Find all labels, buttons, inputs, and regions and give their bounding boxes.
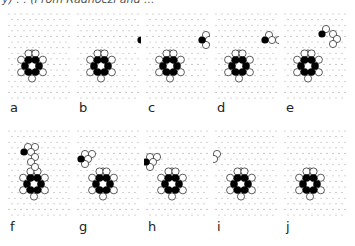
grid-dot <box>50 130 51 131</box>
grid-dot <box>23 53 24 54</box>
grid-dot <box>122 136 123 137</box>
grid-dot <box>245 142 246 143</box>
grid-dot <box>260 19 261 20</box>
grid-dot <box>215 209 216 210</box>
grid-dot <box>200 25 201 26</box>
grid-dot <box>287 192 288 193</box>
grid-dot <box>125 186 126 187</box>
grid-dot <box>134 136 135 137</box>
grid-dot <box>296 130 297 131</box>
panel-j <box>282 129 348 229</box>
grid-dot <box>341 214 342 215</box>
grid-dot <box>260 214 261 215</box>
grid-dot <box>8 81 9 82</box>
grid-dot <box>158 142 159 143</box>
grid-dot <box>308 13 309 14</box>
grid-dot <box>335 19 336 20</box>
grid-dot <box>104 158 105 159</box>
grid-dot <box>284 69 285 70</box>
grid-dot <box>272 192 273 193</box>
grid-dot <box>116 30 117 31</box>
grid-dot <box>185 170 186 171</box>
grid-dot <box>245 25 246 26</box>
grid-dot <box>98 41 99 42</box>
grid-dot <box>41 158 42 159</box>
grid-dot <box>152 81 153 82</box>
grid-dot <box>257 92 258 93</box>
grid-dot <box>38 209 39 210</box>
grid-dot <box>287 75 288 76</box>
grid-dot <box>164 81 165 82</box>
grid-dot <box>191 158 192 159</box>
grid-dot <box>284 130 285 131</box>
open-atom-icon <box>158 187 165 194</box>
grid-dot <box>254 64 255 65</box>
grid-dot <box>17 203 18 204</box>
grid-dot <box>260 41 261 42</box>
grid-dot <box>101 209 102 210</box>
grid-dot <box>125 130 126 131</box>
grid-dot <box>161 158 162 159</box>
grid-dot <box>293 158 294 159</box>
grid-dot <box>224 147 225 148</box>
grid-dot <box>152 130 153 131</box>
grid-dot <box>335 53 336 54</box>
grid-dot <box>8 153 9 154</box>
grid-dot <box>122 97 123 98</box>
grid-dot <box>41 214 42 215</box>
grid-dot <box>224 158 225 159</box>
grid-dot <box>287 97 288 98</box>
open-atom-icon <box>89 174 96 181</box>
grid-dot <box>8 130 9 131</box>
grid-dot <box>329 97 330 98</box>
grid-dot <box>62 25 63 26</box>
grid-dot <box>80 214 81 215</box>
grid-dot <box>20 198 21 199</box>
filled-atom-icon <box>234 174 242 182</box>
open-atom-icon <box>304 75 311 82</box>
grid-dot <box>98 147 99 148</box>
grid-dot <box>242 30 243 31</box>
grid-dot <box>23 170 24 171</box>
grid-dot <box>182 13 183 14</box>
grid-dot <box>227 142 228 143</box>
grid-dot <box>248 30 249 31</box>
grid-dot <box>125 209 126 210</box>
grid-dot <box>266 30 267 31</box>
grid-dot <box>323 53 324 54</box>
grid-dot <box>341 86 342 87</box>
grid-dot <box>266 86 267 87</box>
grid-dot <box>215 25 216 26</box>
grid-dot <box>149 53 150 54</box>
grid-dot <box>158 198 159 199</box>
grid-dot <box>260 64 261 65</box>
grid-dot <box>95 13 96 14</box>
grid-dot <box>137 164 138 165</box>
grid-dot <box>17 30 18 31</box>
grid-dot <box>176 81 177 82</box>
grid-dot <box>215 13 216 14</box>
grid-dot <box>317 30 318 31</box>
grid-dot <box>80 136 81 137</box>
grid-dot <box>287 41 288 42</box>
grid-dot <box>131 36 132 37</box>
grid-dot <box>152 153 153 154</box>
grid-dot <box>290 153 291 154</box>
panel-label-i: i <box>217 219 221 234</box>
grid-dot <box>257 36 258 37</box>
grid-dot <box>263 186 264 187</box>
grid-dot <box>323 64 324 65</box>
grid-dot <box>218 64 219 65</box>
grid-dot <box>302 198 303 199</box>
grid-dot <box>191 170 192 171</box>
grid-dot <box>254 97 255 98</box>
grid-dot <box>227 36 228 37</box>
grid-dot <box>320 13 321 14</box>
grid-dot <box>38 92 39 93</box>
grid-dot <box>215 175 216 176</box>
grid-dot <box>239 142 240 143</box>
grid-dot <box>332 198 333 199</box>
grid-dot <box>122 214 123 215</box>
grid-dot <box>68 81 69 82</box>
grid-dot <box>188 198 189 199</box>
